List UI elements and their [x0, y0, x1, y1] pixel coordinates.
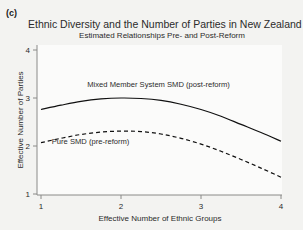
x-axis-ticks	[41, 195, 281, 199]
x-tick-label-1: 1	[39, 202, 44, 211]
chart-plot-area: 4 3 2 1 1 2 3 4 Effective Number of Ethn…	[0, 0, 303, 230]
y-tick-label-4: 4	[26, 46, 31, 55]
y-axis-title: Effective Number of Parties	[16, 71, 25, 168]
x-tick-label-3: 3	[199, 202, 204, 211]
y-tick-label-3: 3	[26, 94, 31, 103]
x-tick-label-2: 2	[119, 202, 124, 211]
x-tick-label-4: 4	[279, 202, 284, 211]
annotation-pre-reform: Pure SMD (pre-reform)	[52, 137, 130, 146]
x-axis-title: Effective Number of Ethnic Groups	[98, 214, 221, 223]
y-axis-ticks	[33, 50, 37, 194]
y-tick-label-2: 2	[26, 142, 31, 151]
plot-background	[37, 45, 282, 195]
figure-panel: (c) Ethnic Diversity and the Number of P…	[0, 0, 303, 230]
annotation-post-reform: Mixed Member System SMD (post-reform)	[87, 80, 230, 89]
y-tick-label-1: 1	[26, 190, 31, 199]
